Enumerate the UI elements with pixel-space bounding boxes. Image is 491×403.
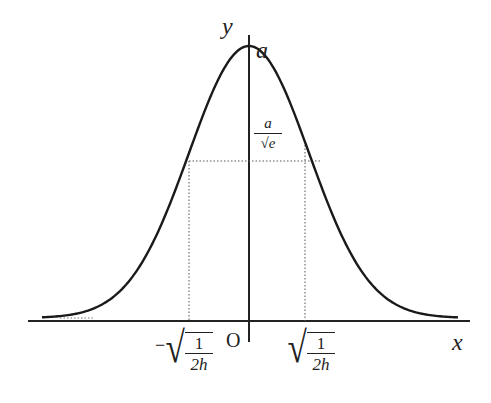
root-numerator: 1	[185, 335, 213, 352]
root-denominator: 2h	[307, 356, 335, 373]
pos-inflection-x-label: √ 1 2h	[285, 330, 337, 376]
sqrt-icon: √	[165, 326, 184, 370]
frac-denominator: √e	[254, 136, 282, 151]
frac-bar	[254, 133, 282, 134]
root-bar	[185, 353, 213, 354]
sqrt-icon: √	[287, 326, 306, 370]
root-fraction: 1 2h	[307, 332, 335, 373]
root-fraction: 1 2h	[185, 332, 213, 373]
inflection-y-label: a √e	[254, 116, 282, 151]
origin-label: O	[226, 330, 240, 350]
peak-label: a	[256, 38, 268, 62]
y-axis-label: y	[222, 14, 233, 38]
neg-inflection-x-label: √ 1 2h	[163, 330, 215, 376]
root-numerator: 1	[307, 335, 335, 352]
root-denominator: 2h	[185, 356, 213, 373]
frac-numerator: a	[254, 116, 282, 131]
x-axis-label: x	[452, 330, 463, 354]
root-bar	[307, 353, 335, 354]
gaussian-diagram	[0, 0, 491, 403]
